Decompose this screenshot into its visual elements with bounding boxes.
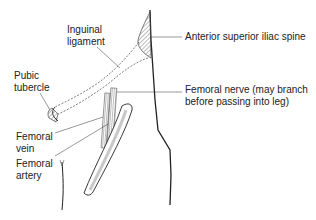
label-anterior-superior-iliac-spine: Anterior superior iliac spine	[185, 31, 306, 43]
femoral-triangle-diagram: Inguinal ligament Anterior superior ilia…	[0, 0, 316, 220]
thigh-lateral-outline	[150, 10, 171, 205]
leader-inguinal	[97, 47, 120, 68]
label-femoral-nerve: Femoral nerve (may branch before passing…	[185, 84, 308, 108]
leader-pubic	[40, 93, 50, 110]
leader-vein	[55, 117, 103, 133]
label-pubic-tubercle: Pubic tubercle	[14, 70, 50, 94]
label-femoral-artery: Femoral artery	[16, 158, 53, 182]
inguinal-ligament-upper	[55, 42, 139, 107]
asis-hatched-region	[138, 12, 151, 58]
label-femoral-vein: Femoral vein	[16, 131, 53, 155]
thigh-medial-outline	[62, 162, 63, 210]
label-inguinal-ligament: Inguinal ligament	[67, 24, 105, 48]
leader-artery	[55, 124, 108, 156]
inguinal-ligament-lower	[58, 58, 148, 114]
